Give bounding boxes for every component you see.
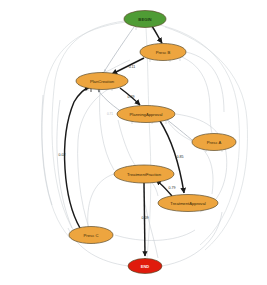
node-presc-c-shape[interactable]	[69, 227, 113, 244]
edge-label-presc-c-plan-creation: 0.02	[59, 153, 66, 157]
faint-edge	[162, 52, 212, 133]
faint-edge	[168, 122, 192, 141]
node-plan-creation-shape[interactable]	[76, 73, 128, 90]
faint-edge	[118, 120, 136, 166]
edge-presc-a-to-planning-approval	[166, 119, 192, 140]
faint-edge	[186, 52, 224, 112]
node-presc-c[interactable]: Presc C	[69, 227, 113, 244]
node-plan-creation[interactable]: PlanCreation	[76, 73, 128, 90]
node-treatment-fraction-shape[interactable]	[114, 165, 174, 183]
faint-edge	[78, 81, 128, 244]
edge-begin-to-presc-b	[152, 26, 162, 43]
node-begin-shape[interactable]	[124, 11, 166, 28]
edge-planning-approval-to-plan-creation	[98, 90, 122, 112]
node-treatment-fraction[interactable]: TreatmentFraction	[114, 165, 174, 183]
faint-edge	[42, 22, 126, 238]
edge-label-presc-b-plan-creation: 0.11	[129, 65, 136, 69]
node-presc-a[interactable]: Presc A	[192, 134, 236, 151]
process-graph: BEGIN Presc B PlanCreation PlanningAppro…	[0, 0, 267, 285]
node-end[interactable]: END	[128, 259, 162, 274]
node-presc-b[interactable]: Presc B	[140, 44, 186, 61]
diagram-canvas: BEGIN Presc B PlanCreation PlanningAppro…	[0, 0, 267, 285]
node-end-shape[interactable]	[128, 259, 162, 274]
node-planning-approval-shape[interactable]	[117, 106, 175, 123]
node-presc-b-shape[interactable]	[140, 44, 186, 61]
edge-label-treatment-approval-treatment-fraction: 0.79	[169, 186, 176, 190]
node-planning-approval[interactable]: PlanningApproval	[117, 106, 175, 123]
faint-edge	[146, 28, 151, 258]
edge-label-planning-approval-plan-creation: 0.71	[107, 112, 113, 116]
edge-label-plan-creation-planning-approval: 0.49	[128, 95, 135, 99]
edge-presc-c-to-plan-creation	[65, 87, 90, 228]
edge-label-treatment-fraction-end: 0.09	[142, 216, 149, 220]
node-presc-a-shape[interactable]	[192, 134, 236, 151]
faint-edge	[52, 21, 124, 240]
faint-edge	[42, 95, 52, 205]
edge-label-planning-approval-treatment-approval: 0.85	[177, 155, 184, 159]
faint-edge	[88, 174, 114, 226]
node-treatment-approval[interactable]: TreatmentApproval	[158, 195, 218, 212]
main-edge-layer	[65, 26, 192, 262]
faint-edge	[115, 230, 195, 240]
node-begin[interactable]: BEGIN	[124, 11, 166, 28]
faint-edge	[100, 90, 114, 170]
node-treatment-approval-shape[interactable]	[158, 195, 218, 212]
